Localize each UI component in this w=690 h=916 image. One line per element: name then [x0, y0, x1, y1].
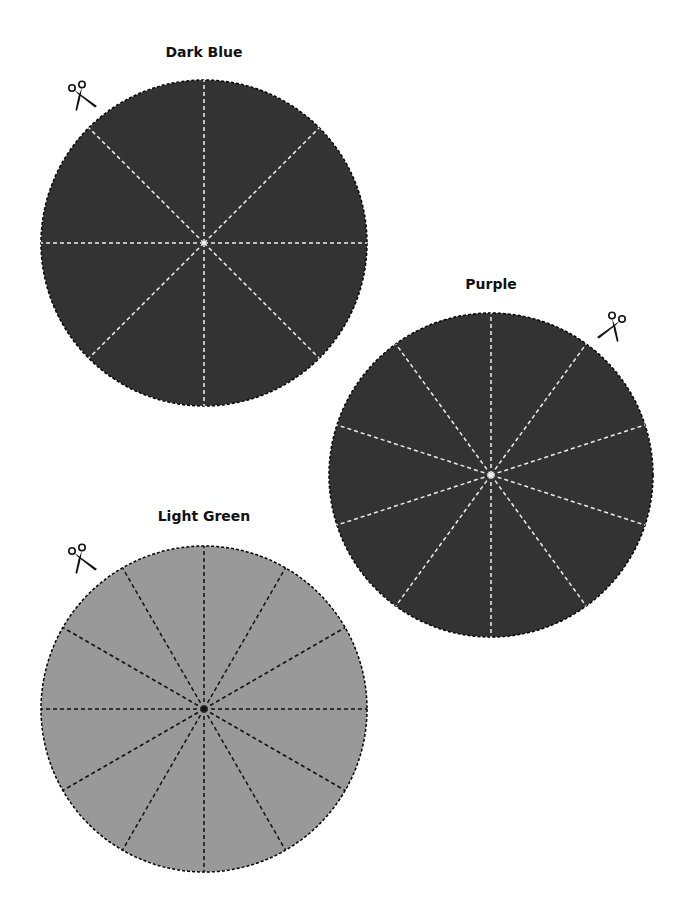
circle-label: Light Green	[158, 508, 251, 524]
center-dot	[202, 707, 206, 711]
circle-templates	[0, 0, 690, 916]
scissors-icon	[66, 80, 100, 114]
circle-purple	[329, 313, 653, 637]
scissors-icon	[594, 311, 628, 345]
scissors-icon	[66, 543, 100, 577]
center-dot	[489, 473, 493, 477]
circle-label: Dark Blue	[165, 44, 242, 60]
circle-light-green	[41, 546, 367, 872]
circle-dark-blue	[41, 80, 367, 406]
center-dot	[202, 241, 206, 245]
circle-label: Purple	[465, 276, 516, 292]
